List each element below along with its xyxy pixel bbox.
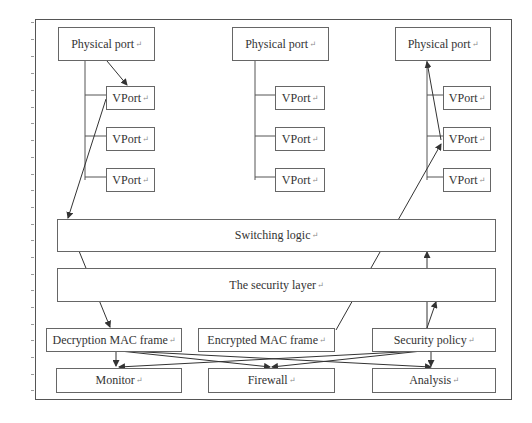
paragraph-mark-icon: ↵ [478,94,485,103]
vport-label: VPort [282,173,311,188]
paragraph-mark-icon: ↵ [478,135,485,144]
physical-port-right: Physical port↵ [395,27,491,61]
vport-label: VPort [112,173,141,188]
vport-left-2: VPort↵ [106,127,155,151]
paragraph-mark-icon: ↵ [311,231,318,240]
encrypted-mac-frame-box: Encrypted MAC frame↵ [198,328,335,352]
vport-label: VPort [449,91,478,106]
vport-label: VPort [112,91,141,106]
firewall-label: Firewall [248,373,288,388]
security-layer-label: The security layer [229,278,316,293]
paragraph-mark-icon: ↵ [317,281,324,290]
paragraph-mark-icon: ↵ [478,176,485,185]
paragraph-mark-icon: ↵ [452,376,459,385]
paragraph-mark-icon: ↵ [472,40,479,49]
vport-middle-3: VPort↵ [275,168,325,192]
paragraph-mark-icon: ↵ [289,376,296,385]
vport-middle-2: VPort↵ [275,127,325,151]
paragraph-mark-icon: ↵ [311,94,318,103]
vport-label: VPort [282,132,311,147]
paragraph-mark-icon: ↵ [311,176,318,185]
security-layer: The security layer↵ [57,268,496,302]
switching-logic-layer: Switching logic↵ [57,219,496,252]
paragraph-mark-icon: ↵ [142,176,149,185]
paragraph-mark-icon: ↵ [468,336,475,345]
vport-left-1: VPort↵ [106,86,155,110]
vport-right-2: VPort↵ [443,127,491,151]
physical-port-label: Physical port [245,37,308,52]
vport-left-3: VPort↵ [106,168,155,192]
vport-label: VPort [282,91,311,106]
monitor-box: Monitor↵ [56,368,182,393]
decryption-mac-frame-label: Decryption MAC frame [52,333,167,348]
paragraph-mark-icon: ↵ [142,94,149,103]
vport-label: VPort [449,132,478,147]
vport-label: VPort [112,132,141,147]
encrypted-mac-frame-label: Encrypted MAC frame [207,333,318,348]
vport-middle-1: VPort↵ [275,86,325,110]
vport-label: VPort [449,173,478,188]
physical-port-middle: Physical port↵ [232,27,329,61]
paragraph-mark-icon: ↵ [135,40,142,49]
security-policy-label: Security policy [394,333,467,348]
paragraph-mark-icon: ↵ [142,135,149,144]
analysis-label: Analysis [409,373,451,388]
physical-port-left: Physical port↵ [58,27,155,61]
connector-lines [0,0,532,423]
firewall-box: Firewall↵ [208,368,335,393]
security-policy-box: Security policy↵ [372,328,496,352]
switching-logic-label: Switching logic [235,228,311,243]
analysis-box: Analysis↵ [372,368,496,393]
physical-port-label: Physical port [71,37,134,52]
vport-right-1: VPort↵ [443,86,491,110]
decryption-mac-frame-box: Decryption MAC frame↵ [46,328,182,352]
paragraph-mark-icon: ↵ [309,40,316,49]
paragraph-mark-icon: ↵ [319,336,326,345]
paragraph-mark-icon: ↵ [136,376,143,385]
paragraph-mark-icon: ↵ [169,336,176,345]
physical-port-label: Physical port [408,37,471,52]
vport-right-3: VPort↵ [443,168,491,192]
monitor-label: Monitor [95,373,134,388]
paragraph-mark-icon: ↵ [311,135,318,144]
